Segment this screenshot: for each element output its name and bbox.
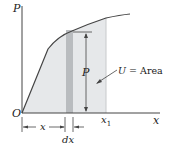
area-under-curve xyxy=(22,18,106,113)
dx-strip xyxy=(66,30,73,113)
y-axis-label: P xyxy=(12,2,21,15)
dim-x-arrow-left xyxy=(23,126,28,129)
dim-dx-label: dx xyxy=(62,134,74,145)
work-diagram: P O x x1 P U = Area x dx xyxy=(0,0,171,150)
dim-dx-arrow xyxy=(74,126,79,129)
x1-label: x1 xyxy=(101,114,111,128)
origin-label: O xyxy=(12,107,21,120)
x-axis-label: x xyxy=(153,114,160,127)
x1-label-sub: 1 xyxy=(107,120,111,128)
dim-x-arrow-right xyxy=(60,126,65,129)
area-label: U = Area xyxy=(118,65,163,76)
area-label-eq: = Area xyxy=(126,65,163,76)
dim-x-label: x xyxy=(40,121,46,132)
p-height-label: P xyxy=(81,66,90,79)
